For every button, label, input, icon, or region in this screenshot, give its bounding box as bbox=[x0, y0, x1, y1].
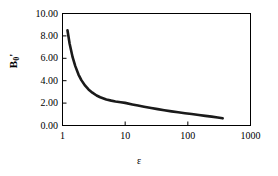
chart-figure: B0' 10.008.006.004.002.000.00 1101001000… bbox=[0, 0, 278, 176]
plot-area bbox=[0, 0, 278, 176]
